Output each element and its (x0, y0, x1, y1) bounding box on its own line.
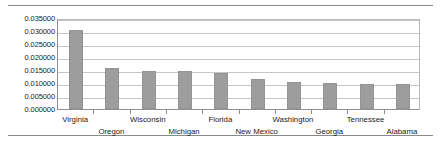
y-axis-tick-label: 0.010000 (3, 80, 55, 88)
x-axis-tick-mark (130, 110, 131, 114)
x-axis-tick-mark (166, 110, 167, 114)
x-axis-category-label: Oregon (98, 127, 124, 136)
x-axis-tick-mark (384, 110, 385, 114)
top-divider-rule (8, 5, 433, 6)
x-axis-category-label: Georgia (315, 127, 343, 136)
x-axis-category-label: Alabama (386, 127, 417, 136)
x-axis-category-label: Virginia (62, 115, 88, 124)
bottom-divider-rule (8, 135, 433, 136)
bar (360, 84, 374, 109)
x-axis-tick-mark (202, 110, 203, 114)
x-axis-category-labels: VirginiaOregonWisconsinMichiganFloridaNe… (0, 14, 441, 48)
bar (323, 83, 337, 109)
bar (142, 71, 156, 109)
bar (251, 79, 265, 109)
y-axis-tick-label: 0.015000 (3, 67, 55, 75)
x-axis-tick-mark (93, 110, 94, 114)
x-axis-category-label: Tennessee (347, 115, 385, 124)
x-axis-tick-mark (347, 110, 348, 114)
y-axis-tick-label: 0.000000 (3, 106, 55, 114)
y-axis-tick-label: 0.020000 (3, 54, 55, 62)
bar-chart: 0.0350000.0300000.0250000.0200000.015000… (0, 14, 441, 110)
x-axis-tick-mark (311, 110, 312, 114)
x-axis-category-label: Wisconsin (130, 115, 166, 124)
bar (214, 73, 228, 109)
y-axis-tick-label: 0.005000 (3, 93, 55, 101)
bar (178, 71, 192, 109)
bar (105, 68, 119, 109)
x-axis-category-label: Michigan (168, 127, 199, 136)
x-axis-category-label: Washington (272, 115, 313, 124)
x-axis-category-label: Florida (208, 115, 232, 124)
x-axis-tick-mark (239, 110, 240, 114)
x-axis-tick-mark (275, 110, 276, 114)
bar (396, 84, 410, 109)
chart-figure: 0.0350000.0300000.0250000.0200000.015000… (0, 0, 441, 144)
x-axis-category-label: New Mexico (235, 127, 277, 136)
bar (287, 82, 301, 109)
